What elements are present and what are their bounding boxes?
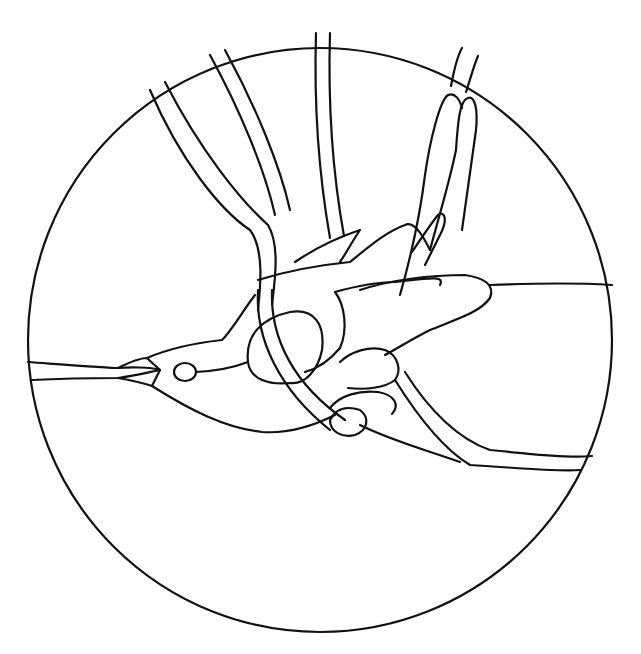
vine-stems: [150, 33, 592, 471]
hummingbird-eye: [174, 363, 196, 381]
hummingbird-head: [147, 295, 335, 432]
hummingbird-beak: [28, 358, 160, 386]
stained-glass-pattern: [0, 0, 641, 654]
hummingbird-tail-feathers: [400, 48, 478, 295]
hummingbird-line-art: [0, 0, 641, 654]
hummingbird-lower-feathers: [330, 348, 398, 435]
circular-frame: [28, 48, 612, 632]
